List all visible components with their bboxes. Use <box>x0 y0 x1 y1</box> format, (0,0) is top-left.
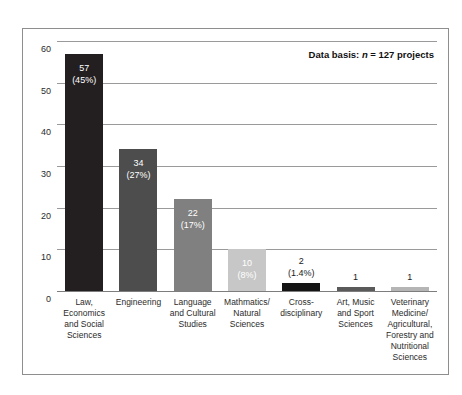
annotation-suffix: = 127 projects <box>368 49 434 60</box>
chart-frame: 010203040506057(45%)34(27%)22(17%)10(8%)… <box>22 28 449 375</box>
bar[interactable]: 34(27%) <box>119 149 157 291</box>
bar-label-group: 10(8%) <box>228 257 266 281</box>
bar-percent-label: (8%) <box>228 269 266 281</box>
bar-value-label: 57 <box>65 62 103 74</box>
bar-slot: 34(27%) <box>119 41 157 291</box>
x-axis-label-line: Mathmatics/ <box>220 297 274 308</box>
x-axis-label-line: Engineering <box>111 297 165 308</box>
x-axis-label-line: disciplinary <box>274 308 328 319</box>
data-basis-annotation: Data basis: n = 127 projects <box>309 49 434 60</box>
x-axis-label-line: Law, <box>57 297 111 308</box>
x-axis-label-line: Nutritional <box>383 341 437 352</box>
bar[interactable] <box>282 283 320 291</box>
x-axis-label-line: Sciences <box>383 352 437 363</box>
x-axis-label-line: Agricultural, <box>383 319 437 330</box>
bar-label-group: 34(27%) <box>119 157 157 181</box>
y-axis-tick-60: 60 <box>21 44 51 54</box>
y-axis-tick-10: 10 <box>21 252 51 262</box>
x-axis-label: Art, Musicand SportSciences <box>328 297 382 330</box>
y-axis-tick-30: 30 <box>21 169 51 179</box>
y-axis-tick-50: 50 <box>21 86 51 96</box>
bar-slot: 1 <box>391 41 429 291</box>
y-axis-tick-0: 0 <box>21 294 51 304</box>
bar-label-group: 57(45%) <box>65 62 103 86</box>
bar-series: 57(45%)34(27%)22(17%)10(8%)2(1.4%)11 <box>57 41 437 291</box>
x-axis-label-line: Sciences <box>328 319 382 330</box>
x-axis-label-line: Language <box>166 297 220 308</box>
cropped-header-sliver <box>0 0 462 9</box>
x-axis-label-line: Forestry and <box>383 330 437 341</box>
bar-slot: 1 <box>337 41 375 291</box>
bar[interactable]: 57(45%) <box>65 54 103 292</box>
x-axis-label-line: Cross- <box>274 297 328 308</box>
x-axis-label-line: Natural <box>220 308 274 319</box>
bar[interactable]: 10(8%) <box>228 249 266 291</box>
gridline-0 <box>57 291 437 292</box>
x-axis-label: Law,Economicsand SocialSciences <box>57 297 111 341</box>
bar[interactable]: 22(17%) <box>174 199 212 291</box>
bar-percent-label: (17%) <box>174 219 212 231</box>
x-axis-label-line: Sciences <box>220 319 274 330</box>
bar-percent-label: (45%) <box>65 74 103 86</box>
x-axis-label-line: Studies <box>166 319 220 330</box>
x-axis-label-line: and Social <box>57 319 111 330</box>
bar-label-group: 1 <box>377 271 443 283</box>
x-axis-label-line: Medicine/ <box>383 308 437 319</box>
x-axis-label: Cross-disciplinary <box>274 297 328 319</box>
x-axis-label-line: and Sport <box>328 308 382 319</box>
bar-value-label: 1 <box>377 271 443 283</box>
plot-area: 010203040506057(45%)34(27%)22(17%)10(8%)… <box>57 41 437 291</box>
x-axis-label-line: and Cultural <box>166 308 220 319</box>
x-axis-label: VeterinaryMedicine/Agricultural,Forestry… <box>383 297 437 363</box>
bar-value-label: 2 <box>268 255 334 267</box>
y-axis-tick-20: 20 <box>21 211 51 221</box>
bar[interactable] <box>391 287 429 291</box>
x-axis-label-line: Art, Music <box>328 297 382 308</box>
x-axis-label-line: Sciences <box>57 330 111 341</box>
x-axis-label: Engineering <box>111 297 165 308</box>
bar-slot: 57(45%) <box>65 41 103 291</box>
bar[interactable] <box>337 287 375 291</box>
bar-slot: 2(1.4%) <box>282 41 320 291</box>
bar-percent-label: (27%) <box>119 169 157 181</box>
annotation-prefix: Data basis: <box>309 49 362 60</box>
bar-slot: 10(8%) <box>228 41 266 291</box>
bar-value-label: 34 <box>119 157 157 169</box>
bar-value-label: 22 <box>174 207 212 219</box>
x-axis-label: Languageand CulturalStudies <box>166 297 220 330</box>
x-axis-label: Mathmatics/NaturalSciences <box>220 297 274 330</box>
bar-label-group: 22(17%) <box>174 207 212 231</box>
y-axis-tick-40: 40 <box>21 127 51 137</box>
x-axis-label-line: Economics <box>57 308 111 319</box>
x-axis-label-line: Veterinary <box>383 297 437 308</box>
bar-value-label: 10 <box>228 257 266 269</box>
bar-slot: 22(17%) <box>174 41 212 291</box>
